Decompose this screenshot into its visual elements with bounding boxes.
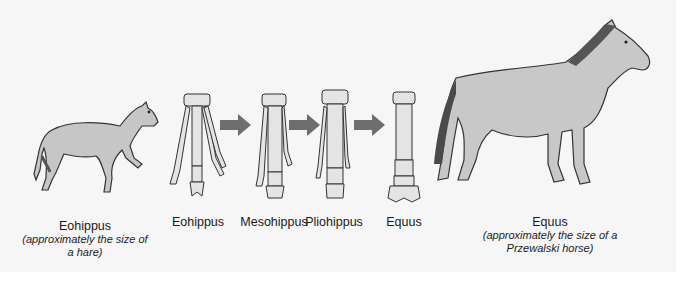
- diagram-panel: Eohippus (approximately the size of a ha…: [0, 0, 676, 272]
- equus-animal-caption: Equus (approximately the size of a Przew…: [470, 215, 630, 254]
- pliohippus-foot-illustration: [314, 88, 354, 204]
- eohippus-foot-label: Eohippus: [160, 215, 236, 229]
- arrow-right-icon: [354, 114, 386, 136]
- arrow-right-icon: [220, 114, 252, 136]
- equus-animal-illustration: [426, 14, 656, 194]
- stage-name: Eohippus: [59, 219, 111, 233]
- pliohippus-foot-label: Pliohippus: [296, 215, 372, 229]
- equus-foot-label: Equus: [366, 215, 442, 229]
- stage-note: (approximately the size of a Przewalski …: [470, 229, 630, 254]
- stage-note: (approximately the size of a hare): [20, 233, 150, 258]
- mesohippus-foot-illustration: [252, 92, 296, 202]
- eohippus-foot-illustration: [168, 92, 228, 202]
- stage-name: Equus: [532, 215, 567, 229]
- eohippus-animal-illustration: [30, 100, 160, 200]
- eohippus-animal-caption: Eohippus (approximately the size of a ha…: [20, 219, 150, 258]
- equus-foot-illustration: [386, 90, 422, 206]
